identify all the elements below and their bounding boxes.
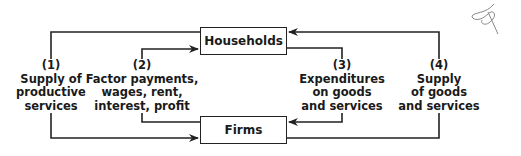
flow-2-text-line: wages, rent, <box>86 86 199 100</box>
flow-4-text-line: and services <box>398 100 479 114</box>
flow-1-number: (1) <box>16 59 86 73</box>
households-box: Households <box>200 27 287 55</box>
flow-4-text-line: of goods <box>398 86 479 100</box>
flow-4-number: (4) <box>398 59 479 73</box>
households-label: Households <box>204 34 283 48</box>
flow-2-text-line: Factor payments, <box>86 73 199 87</box>
flow-4-label: (4) Supply of goods and services <box>398 59 479 113</box>
flow-1-label: (1) Supply of productive services <box>16 59 86 113</box>
flow-1-text-line: services <box>16 100 86 114</box>
flow-3-text-line: Expenditures <box>299 73 385 87</box>
flow-3-text-line: and services <box>299 100 385 114</box>
handwritten-mark <box>472 4 498 34</box>
flow-1-text-line: productive <box>16 86 86 100</box>
flow-2-label: (2) Factor payments, wages, rent, intere… <box>86 59 199 113</box>
flow-2-text-line: interest, profit <box>86 100 199 114</box>
flow-3-text-line: on goods <box>299 86 385 100</box>
flow-1-text-line: Supply of <box>16 73 86 87</box>
flow-4-text-line: Supply <box>398 73 479 87</box>
flow-2-number: (2) <box>86 59 199 73</box>
firms-label: Firms <box>225 123 263 137</box>
flow-3-number: (3) <box>299 59 385 73</box>
flow-3-label: (3) Expenditures on goods and services <box>299 59 385 113</box>
firms-box: Firms <box>200 116 287 144</box>
